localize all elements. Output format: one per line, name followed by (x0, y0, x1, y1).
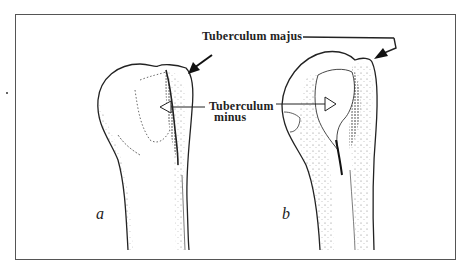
label-tuberculum-minus: Tuberculum minus (209, 101, 274, 123)
humerus-b (282, 52, 377, 250)
humerus-a (98, 64, 193, 250)
label-tuberculum-minus-line2: minus (209, 112, 274, 123)
panel-label-a: a (96, 205, 104, 223)
panel-label-b: b (282, 205, 290, 223)
label-tuberculum-majus: Tuberculum majus (202, 31, 302, 42)
arrow-head-b (374, 48, 388, 59)
